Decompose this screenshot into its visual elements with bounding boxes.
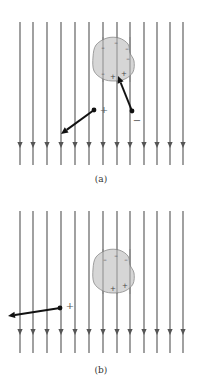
field-line [141, 211, 146, 353]
field-line [180, 211, 185, 353]
field-arrowhead-icon [114, 329, 119, 335]
field-line [167, 211, 172, 353]
field-diagram-b: –––+++ [0, 192, 202, 385]
field-line [167, 22, 172, 165]
field-arrowhead-icon [141, 142, 146, 148]
field-line [86, 211, 91, 353]
field-arrowhead-icon [127, 142, 132, 148]
field-line [72, 211, 77, 353]
field-line [72, 22, 77, 165]
field-arrowhead-icon [141, 329, 146, 335]
panel-a: –––––+++− (a) [0, 0, 202, 195]
field-line [44, 211, 49, 353]
charge-sign-label: − [133, 115, 141, 126]
induced-charge-sign: + [122, 282, 128, 290]
field-arrowhead-icon [154, 329, 159, 335]
field-arrowhead-icon [167, 142, 172, 148]
induced-charge-sign: – [125, 45, 129, 53]
field-line [30, 211, 35, 353]
field-arrowhead-icon [86, 329, 91, 335]
point-charge [130, 109, 135, 114]
field-arrowhead-icon [30, 329, 35, 335]
field-arrowhead-icon [180, 142, 185, 148]
field-arrowhead-icon [86, 142, 91, 148]
charge-sign-label: + [100, 104, 108, 115]
neutral-conductor-blob: –––++ [93, 249, 135, 294]
field-arrowhead-icon [17, 142, 22, 148]
point-charge [58, 306, 63, 311]
field-line [154, 22, 159, 165]
field-diagram-a: –––––+++− [0, 0, 202, 195]
field-line [141, 22, 146, 165]
field-line [58, 211, 63, 353]
field-arrowhead-icon [58, 142, 63, 148]
field-arrowhead-icon [100, 142, 105, 148]
caption-a: (a) [0, 174, 202, 184]
induced-charge-sign: – [101, 70, 105, 78]
field-arrowhead-icon [72, 142, 77, 148]
field-arrowhead-icon [30, 142, 35, 148]
field-line [58, 22, 63, 165]
field-arrowhead-icon [44, 142, 49, 148]
induced-charge-sign: – [103, 256, 107, 264]
field-arrowhead-icon [100, 329, 105, 335]
field-arrowhead-icon [17, 329, 22, 335]
neutral-conductor-blob: –––––++ [93, 37, 135, 82]
field-arrowhead-icon [58, 329, 63, 335]
caption-b: (b) [0, 365, 202, 375]
induced-charge-sign: – [124, 256, 128, 264]
force-arrow [8, 308, 60, 318]
panel-b: –––+++ (b) [0, 192, 202, 385]
induced-charge-sign: + [110, 73, 116, 81]
field-arrowhead-icon [180, 329, 185, 335]
field-arrowhead-icon [167, 329, 172, 335]
field-line [44, 22, 49, 165]
induced-charge-sign: + [110, 285, 116, 293]
point-charge [92, 108, 97, 113]
field-line [86, 22, 91, 165]
induced-charge-sign: – [126, 55, 130, 63]
induced-charge-sign: – [101, 44, 105, 52]
induced-charge-sign: + [121, 70, 127, 78]
field-arrowhead-icon [154, 142, 159, 148]
induced-charge-sign: – [114, 252, 118, 260]
field-line [17, 211, 22, 353]
field-line [180, 22, 185, 165]
field-line [17, 22, 22, 165]
field-arrowhead-icon [44, 329, 49, 335]
field-arrowhead-icon [127, 329, 132, 335]
field-line [154, 211, 159, 353]
field-arrowhead-icon [114, 142, 119, 148]
field-line [30, 22, 35, 165]
charge-sign-label: + [66, 300, 74, 311]
field-arrowhead-icon [72, 329, 77, 335]
induced-charge-sign: – [114, 39, 118, 47]
